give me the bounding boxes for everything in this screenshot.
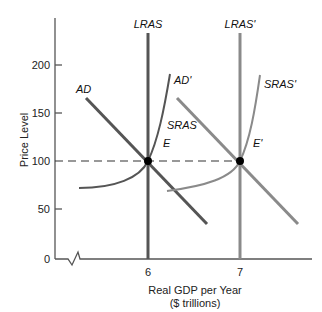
x-tick-label-6: 6: [145, 266, 151, 278]
sras-prime-label: SRAS': [264, 78, 297, 90]
chart-canvas: 200 150 100 50 0 Price Level 6 7 Real GD…: [0, 0, 322, 312]
sras-label: SRAS: [167, 119, 198, 131]
y-tick-label-0: 0: [44, 253, 50, 265]
lras-prime-label: LRAS': [225, 18, 257, 30]
y-tick-label-200: 200: [32, 59, 50, 71]
ad-prime-label: AD': [173, 74, 192, 86]
equilibrium-point-e: [144, 157, 152, 165]
equilibrium-point-e-prime: [236, 157, 244, 165]
ad-label: AD: [75, 83, 91, 95]
y-tick-label-100: 100: [32, 155, 50, 167]
y-tick-label-50: 50: [38, 203, 50, 215]
x-axis-label: Real GDP per Year: [148, 284, 242, 296]
x-axis-label-units: ($ trillions): [170, 297, 221, 309]
sras-prime-curve: [167, 75, 260, 191]
lras-label: LRAS: [134, 18, 163, 30]
e-prime-label: E': [253, 137, 263, 149]
y-axis-label: Price Level: [18, 113, 30, 167]
x-tick-label-7: 7: [237, 266, 243, 278]
x-axis: [55, 252, 312, 265]
e-label: E: [163, 137, 171, 149]
y-tick-label-150: 150: [32, 107, 50, 119]
